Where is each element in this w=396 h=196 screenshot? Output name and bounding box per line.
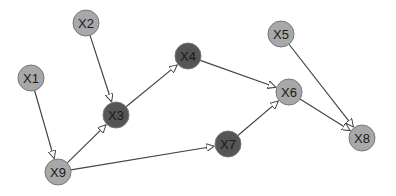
edge-x7-to-x6 — [238, 101, 278, 135]
node-x4: X4 — [175, 43, 201, 69]
node-label: X9 — [50, 165, 66, 180]
node-label: X2 — [78, 16, 94, 31]
node-x2: X2 — [73, 10, 99, 36]
node-x8: X8 — [349, 125, 375, 151]
edge-x9-to-x7 — [71, 146, 214, 170]
edge-x9-to-x3 — [67, 125, 106, 163]
edge-x3-to-x4 — [126, 65, 177, 107]
node-x9: X9 — [45, 159, 71, 185]
edge-x6-to-x8 — [300, 99, 350, 131]
node-label: X5 — [273, 27, 289, 42]
node-label: X8 — [354, 131, 370, 146]
node-x3: X3 — [103, 102, 129, 128]
node-x5: X5 — [268, 21, 294, 47]
node-label: X1 — [23, 71, 39, 86]
edge-x1-to-x9 — [35, 90, 55, 158]
node-x1: X1 — [18, 65, 44, 91]
node-label: X6 — [281, 85, 297, 100]
node-label: X3 — [108, 108, 124, 123]
directed-graph: X1X2X3X4X5X6X7X8X9 — [0, 0, 396, 196]
node-x6: X6 — [276, 79, 302, 105]
node-label: X7 — [220, 137, 236, 152]
edge-x2-to-x3 — [90, 35, 112, 101]
node-x7: X7 — [215, 131, 241, 157]
node-label: X4 — [180, 49, 196, 64]
edge-x4-to-x6 — [200, 60, 276, 87]
